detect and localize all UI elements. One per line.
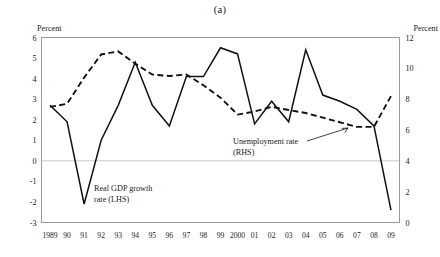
x-tick-90: 90 (63, 231, 71, 240)
x-tick-08: 08 (370, 231, 378, 240)
right-tick-2: 2 (406, 188, 410, 197)
left-tick-6: 6 (32, 34, 36, 43)
left-tick-4: 4 (32, 75, 36, 84)
left-tick-3: 3 (32, 95, 36, 104)
right-tick-6: 6 (406, 126, 410, 135)
right-tick-0: 0 (406, 219, 410, 228)
x-tick-07: 07 (353, 231, 361, 240)
x-tick-03: 03 (285, 231, 293, 240)
chart-canvas: 6543210-1-2-3 121086420 1989909192939495… (0, 0, 440, 257)
series-unemployment-rate (50, 51, 391, 127)
x-tick-98: 98 (200, 231, 208, 240)
x-tick-97: 97 (183, 231, 191, 240)
left-tick-5: 5 (32, 54, 36, 63)
annotation-unemp-line2: (RHS) (233, 148, 255, 157)
x-tick-1989: 1989 (42, 231, 57, 240)
x-axis-tick-labels: 1989909192939495969798992000010203040506… (42, 231, 395, 240)
x-tick-96: 96 (166, 231, 174, 240)
right-tick-4: 4 (406, 157, 410, 166)
x-tick-93: 93 (114, 231, 122, 240)
x-tick-2000: 2000 (230, 231, 245, 240)
x-tick-94: 94 (131, 231, 139, 240)
x-tick-95: 95 (149, 231, 157, 240)
left-tick--3: -3 (30, 219, 37, 228)
left-tick--1: -1 (30, 177, 37, 186)
annotation-unemp-line1: Unemployment rate (233, 137, 299, 146)
left-tick-2: 2 (32, 116, 36, 125)
left-axis-tick-labels: 6543210-1-2-3 (30, 34, 37, 228)
left-tick-1: 1 (32, 136, 36, 145)
x-tick-05: 05 (319, 231, 327, 240)
annotation-leader-arrow (307, 128, 348, 141)
x-tick-99: 99 (217, 231, 225, 240)
x-tick-01: 01 (251, 231, 259, 240)
figure-panel-a: (a) Percent Percent 6543210-1-2-3 121086… (0, 0, 440, 257)
annotation-gdp-line2: rate (LHS) (94, 195, 130, 204)
x-tick-92: 92 (97, 231, 105, 240)
x-tick-06: 06 (336, 231, 344, 240)
left-tick-0: 0 (32, 157, 36, 166)
x-tick-09: 09 (387, 231, 395, 240)
annotation-gdp-line1: Real GDP growth (94, 184, 152, 193)
x-tick-91: 91 (80, 231, 88, 240)
x-tick-02: 02 (268, 231, 276, 240)
right-tick-8: 8 (406, 95, 410, 104)
left-tick--2: -2 (30, 198, 37, 207)
right-axis-tick-labels: 121086420 (406, 34, 414, 228)
right-tick-12: 12 (406, 34, 414, 43)
x-tick-04: 04 (302, 231, 310, 240)
right-tick-10: 10 (406, 64, 414, 73)
